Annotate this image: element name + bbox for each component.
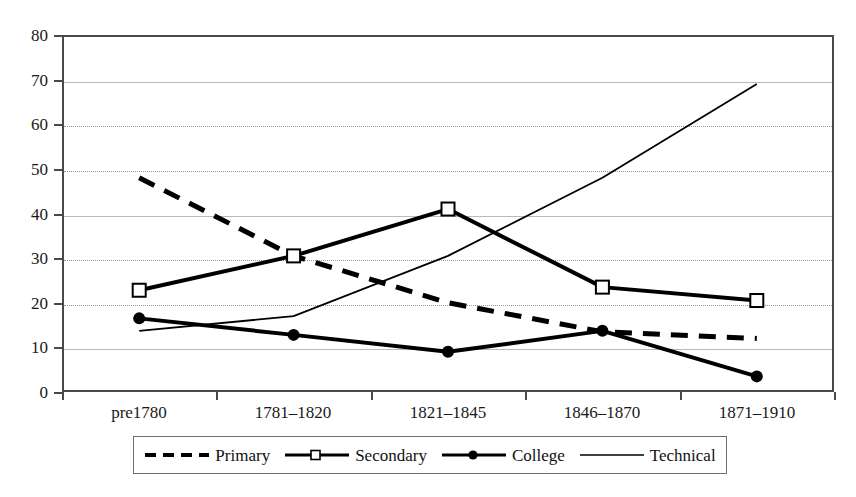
gridline-20 <box>64 305 832 306</box>
y-tick-mark-30 <box>54 258 62 260</box>
x-tick-mark-0 <box>62 392 64 400</box>
y-tick-label-40: 40 <box>14 206 48 223</box>
y-tick-mark-0 <box>54 392 62 394</box>
plot-area <box>62 35 834 392</box>
x-tick-label-1781-1820: 1781–1820 <box>255 404 332 421</box>
y-tick-mark-70 <box>54 80 62 82</box>
legend-label-secondary: Secondary <box>355 447 427 464</box>
gridline-70 <box>64 82 832 83</box>
legend-entry-college[interactable]: College <box>434 447 572 464</box>
x-tick-mark-2 <box>371 392 373 400</box>
x-tick-mark-5 <box>834 392 836 400</box>
x-tick-label-pre1780: pre1780 <box>111 404 167 421</box>
y-tick-label-10: 10 <box>14 339 48 356</box>
gridline-30 <box>64 260 832 261</box>
y-tick-mark-80 <box>54 35 62 37</box>
gridline-40 <box>64 216 832 217</box>
line-chart-figure: 80 70 60 50 40 30 20 10 0 pre1780 1781–1… <box>0 0 856 497</box>
legend-label-technical: Technical <box>650 447 716 464</box>
y-tick-label-50: 50 <box>14 161 48 178</box>
legend-entry-technical[interactable]: Technical <box>572 447 723 464</box>
y-tick-label-80: 80 <box>14 27 48 44</box>
y-tick-mark-50 <box>54 169 62 171</box>
x-tick-label-1871-1910: 1871–1910 <box>719 404 796 421</box>
gridline-10 <box>64 349 832 350</box>
y-tick-mark-60 <box>54 124 62 126</box>
y-tick-label-20: 20 <box>14 295 48 312</box>
line-filled-circle-sample-icon <box>441 448 507 462</box>
thin-line-sample-icon <box>579 448 645 462</box>
legend-entry-secondary[interactable]: Secondary <box>277 447 434 464</box>
legend-label-college: College <box>512 447 565 464</box>
y-tick-label-30: 30 <box>14 250 48 267</box>
x-tick-label-1846-1870: 1846–1870 <box>564 404 641 421</box>
y-tick-label-70: 70 <box>14 72 48 89</box>
y-tick-label-60: 60 <box>14 116 48 133</box>
y-tick-mark-40 <box>54 214 62 216</box>
x-tick-label-1821-1845: 1821–1845 <box>410 404 487 421</box>
x-tick-mark-1 <box>216 392 218 400</box>
x-tick-mark-4 <box>680 392 682 400</box>
legend-entry-primary[interactable]: Primary <box>137 447 277 464</box>
gridline-50 <box>64 171 832 172</box>
y-tick-mark-10 <box>54 347 62 349</box>
dashed-line-sample-icon <box>144 448 210 462</box>
y-tick-label-0: 0 <box>14 384 48 401</box>
legend: Primary Secondary College Technical <box>133 436 727 474</box>
x-tick-mark-3 <box>525 392 527 400</box>
y-tick-mark-20 <box>54 303 62 305</box>
line-open-square-sample-icon <box>284 448 350 462</box>
gridline-60 <box>64 126 832 127</box>
legend-label-primary: Primary <box>215 447 270 464</box>
